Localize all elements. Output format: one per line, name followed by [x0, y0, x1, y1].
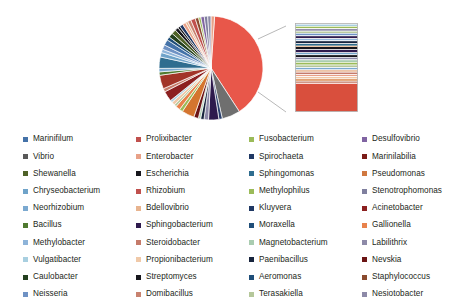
callout-band	[296, 83, 358, 84]
legend-item-label: Desulfovibrio	[372, 135, 420, 143]
callout-band	[296, 67, 358, 68]
legend-item[interactable]: Methylophilus	[249, 183, 362, 200]
callout-band	[296, 44, 358, 46]
legend-item-label: Sphingomonas	[259, 170, 314, 178]
legend-swatch-icon	[23, 189, 28, 194]
legend-item-label: Chryseobacterium	[33, 187, 100, 195]
legend-item[interactable]: Enterobacter	[136, 148, 249, 165]
legend-swatch-icon	[136, 154, 141, 159]
legend-item[interactable]: Rhizobium	[136, 183, 249, 200]
callout-band	[296, 41, 358, 43]
legend-item-label: Pseudomonas	[372, 170, 425, 178]
legend-item[interactable]: Sphingomonas	[249, 165, 362, 182]
legend-item-label: Bdellovibrio	[146, 204, 189, 212]
legend-item[interactable]: Shewanella	[23, 165, 136, 182]
legend-swatch-icon	[249, 171, 254, 176]
legend-swatch-icon	[362, 292, 367, 297]
legend-item[interactable]: Paenibacillus	[249, 251, 362, 268]
legend-swatch-icon	[249, 137, 254, 142]
legend-item[interactable]: Desulfovibrio	[362, 131, 470, 148]
legend-item[interactable]: Prolixibacter	[136, 131, 249, 148]
callout-band	[296, 25, 358, 26]
legend-swatch-icon	[362, 137, 367, 142]
callout-band	[296, 52, 358, 53]
legend-item[interactable]: Bdellovibrio	[136, 200, 249, 217]
legend-swatch-icon	[362, 171, 367, 176]
callout-band	[296, 35, 358, 36]
callout-band	[296, 72, 358, 73]
legend-item[interactable]: Escherichia	[136, 165, 249, 182]
legend-item-label: Caulobacter	[33, 273, 78, 281]
legend-item[interactable]: Pseudomonas	[362, 165, 470, 182]
callout-band	[296, 33, 358, 34]
legend-item[interactable]: Caulobacter	[23, 269, 136, 286]
legend-swatch-icon	[249, 189, 254, 194]
legend-item[interactable]: Fusobacterium	[249, 131, 362, 148]
callout-band	[296, 29, 358, 31]
pie-chart-figure: MarinifilumProlixibacterFusobacteriumDes…	[0, 0, 470, 302]
legend-item-label: Stenotrophomonas	[372, 187, 442, 195]
legend-item[interactable]: Bacillus	[23, 217, 136, 234]
legend-item-label: Marinilabilia	[372, 153, 416, 161]
legend-item[interactable]: Gallionella	[362, 217, 470, 234]
callout-band	[296, 65, 358, 67]
legend-item[interactable]: Aeromonas	[249, 269, 362, 286]
legend-item-label: Gallionella	[372, 221, 411, 229]
legend-item[interactable]: Terasakiella	[249, 286, 362, 302]
legend-swatch-icon	[136, 257, 141, 262]
legend-item-label: Fusobacterium	[259, 135, 314, 143]
legend-item[interactable]: Spirochaeta	[249, 148, 362, 165]
pie-chart-svg	[155, 16, 267, 120]
legend-item[interactable]: Staphylococcus	[362, 269, 470, 286]
legend-swatch-icon	[23, 240, 28, 245]
legend-item-label: Acinetobacter	[372, 204, 423, 212]
legend-item[interactable]: Moraxella	[249, 217, 362, 234]
legend-swatch-icon	[23, 257, 28, 262]
legend-item[interactable]: Streptomyces	[136, 269, 249, 286]
legend-swatch-icon	[136, 292, 141, 297]
pie-chart	[155, 16, 267, 120]
callout-band	[296, 81, 358, 82]
legend-item[interactable]: Marinilabilia	[362, 148, 470, 165]
legend-item-label: Sphingobacterium	[146, 221, 213, 229]
callout-band	[296, 47, 358, 49]
legend-swatch-icon	[136, 240, 141, 245]
legend-item[interactable]: Steroidobacter	[136, 234, 249, 251]
legend-item[interactable]: Acinetobacter	[362, 200, 470, 217]
pie-slice-group[interactable]	[159, 16, 263, 120]
callout-band	[296, 63, 358, 65]
legend-item-label: Enterobacter	[146, 153, 193, 161]
legend-swatch-icon	[249, 240, 254, 245]
legend-item[interactable]: Nesiotobacter	[362, 286, 470, 302]
callout-band	[296, 38, 358, 39]
legend-item[interactable]: Nevskia	[362, 251, 470, 268]
callout-band	[296, 36, 358, 38]
magnified-callout-panel	[286, 22, 366, 114]
legend-item[interactable]: Domibacillus	[136, 286, 249, 302]
legend-item[interactable]: Sphingobacterium	[136, 217, 249, 234]
callout-band	[296, 65, 358, 66]
legend-item[interactable]: Kluyvera	[249, 200, 362, 217]
callout-band	[296, 70, 358, 72]
legend-item[interactable]: Vibrio	[23, 148, 136, 165]
legend-item-label: Streptomyces	[146, 273, 197, 281]
legend-item-label: Steroidobacter	[146, 239, 200, 247]
chart-area	[0, 0, 470, 126]
legend-item[interactable]: Propionibacterium	[136, 251, 249, 268]
legend-item-label: Paenibacillus	[259, 256, 308, 264]
legend-item[interactable]: Labilithrix	[362, 234, 470, 251]
legend-swatch-icon	[23, 171, 28, 176]
legend-item[interactable]: Neorhizobium	[23, 200, 136, 217]
legend-swatch-icon	[249, 206, 254, 211]
callout-band	[296, 34, 358, 36]
legend-item[interactable]: Vulgatibacter	[23, 251, 136, 268]
callout-band	[296, 55, 358, 57]
legend-item[interactable]: Chryseobacterium	[23, 183, 136, 200]
legend-item[interactable]: Magnetobacterium	[249, 234, 362, 251]
legend-item-label: Neorhizobium	[33, 204, 84, 212]
legend-item[interactable]: Methylobacter	[23, 234, 136, 251]
legend-swatch-icon	[362, 189, 367, 194]
legend-item[interactable]: Neisseria	[23, 286, 136, 302]
legend-item[interactable]: Stenotrophomonas	[362, 183, 470, 200]
legend-item[interactable]: Marinifilum	[23, 131, 136, 148]
